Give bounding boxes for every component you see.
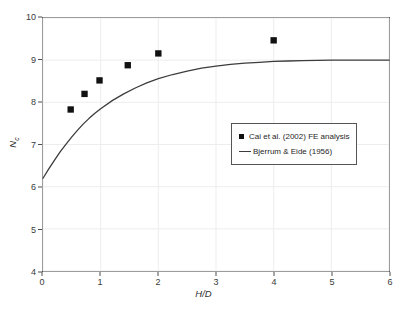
square-marker-icon xyxy=(239,134,244,139)
y-axis-title-subscript: c xyxy=(13,137,20,141)
legend-label-line: Bjerrum & Eide (1956) xyxy=(253,147,332,156)
y-axis-title: Nc xyxy=(7,137,20,147)
chart-figure: 45678910 0123456 Nc H/D Cai et al. (2002… xyxy=(0,0,407,312)
line-marker-icon xyxy=(239,151,251,152)
legend-item-scatter: Cai et al. (2002) FE analysis xyxy=(239,129,350,144)
y-axis-title-base: N xyxy=(7,141,18,148)
chart-legend: Cai et al. (2002) FE analysis Bjerrum & … xyxy=(231,123,357,165)
legend-item-line: Bjerrum & Eide (1956) xyxy=(239,144,350,159)
x-axis-title: H/D xyxy=(0,288,407,299)
legend-label-scatter: Cai et al. (2002) FE analysis xyxy=(249,132,350,141)
